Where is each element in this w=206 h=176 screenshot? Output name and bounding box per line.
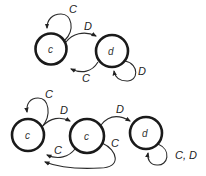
label-bottom-d-self: C, D: [175, 149, 197, 161]
label-top-c-self: C: [69, 3, 77, 15]
top-machine: C D C D c d: [36, 3, 147, 84]
label-bottom-c2-to-c1: C: [54, 144, 62, 156]
edge-bottom-c2-to-d-D: [101, 117, 130, 125]
state-top-c-label: c: [48, 44, 53, 55]
label-top-d-to-c: C: [82, 72, 90, 84]
bottom-machine: C D C D C C, D c c d: [12, 88, 197, 168]
label-top-d-self: D: [138, 65, 146, 77]
diagram-canvas: C D C D c d C D C D C C, D: [0, 0, 206, 176]
edge-top-c-to-d-D: [66, 33, 96, 42]
label-bottom-c2-to-d: D: [116, 103, 124, 115]
edge-top-d-to-c-C: [71, 62, 98, 72]
label-bottom-c1-self: C: [45, 88, 53, 100]
label-bottom-long-C: C: [111, 137, 119, 149]
label-top-c-to-d: D: [84, 20, 92, 32]
state-top-d-label: d: [108, 46, 114, 57]
state-bottom-c2-label: c: [84, 131, 89, 142]
state-bottom-c1-label: c: [25, 130, 30, 141]
state-bottom-d-label: d: [142, 128, 148, 139]
label-bottom-c1-to-c2: D: [60, 104, 68, 116]
